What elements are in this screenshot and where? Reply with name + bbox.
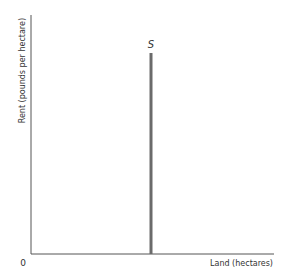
chart: S 0 Land (hectares) Rent (pounds per hec… bbox=[0, 0, 292, 280]
origin-label: 0 bbox=[20, 258, 26, 268]
supply-label: S bbox=[148, 39, 155, 50]
x-axis-label: Land (hectares) bbox=[210, 259, 273, 268]
y-axis-label: Rent (pounds per hectare) bbox=[18, 18, 27, 123]
